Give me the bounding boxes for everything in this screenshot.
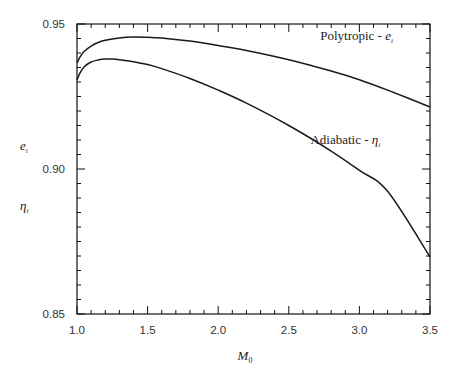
x-axis-label: M0 xyxy=(237,348,253,365)
y-axis-label-eta: ηi xyxy=(20,198,28,215)
chart-svg: 1.01.52.02.53.03.5 0.850.900.95 Polytrop… xyxy=(0,0,455,383)
adiabatic-label: Adiabatic - ηi xyxy=(310,132,380,149)
x-tick-label: 2.5 xyxy=(281,324,297,336)
axis-ticks xyxy=(77,24,430,314)
x-tick-label: 1.5 xyxy=(140,324,156,336)
x-axis-label-sub: 0 xyxy=(248,356,252,365)
plot-frame xyxy=(77,24,430,314)
y-tick-labels: 0.850.900.95 xyxy=(43,18,65,320)
y-axis-label-e: ei xyxy=(20,138,28,155)
adiabatic-line xyxy=(77,59,430,257)
y-tick-label: 0.90 xyxy=(43,163,65,175)
polytropic-label: Polytropic - ei xyxy=(320,28,393,45)
x-tick-label: 3.5 xyxy=(422,324,438,336)
x-tick-label: 1.0 xyxy=(69,324,85,336)
series-labels: Polytropic - eiAdiabatic - ηi xyxy=(310,28,393,149)
plot-area: 1.01.52.02.53.03.5 0.850.900.95 Polytrop… xyxy=(43,18,438,336)
y-tick-label: 0.95 xyxy=(43,18,65,30)
x-tick-labels: 1.01.52.02.53.03.5 xyxy=(69,324,438,336)
x-tick-label: 3.0 xyxy=(351,324,367,336)
polytropic-line xyxy=(77,37,430,107)
y-tick-label: 0.85 xyxy=(43,308,65,320)
x-tick-label: 2.0 xyxy=(210,324,226,336)
